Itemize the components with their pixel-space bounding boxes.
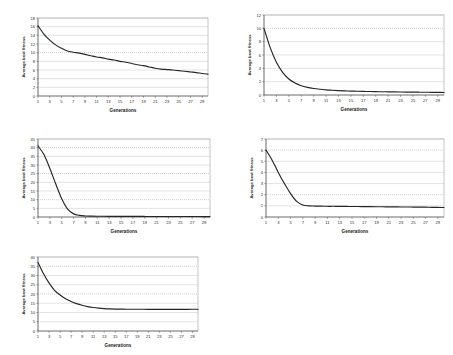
y-axis-title: Average best fitness xyxy=(21,36,26,78)
x-tick-label: 1 xyxy=(37,99,40,104)
x-tick-label: 15 xyxy=(118,99,123,104)
y-tick-label: 15 xyxy=(30,301,35,306)
y-tick-label: 20 xyxy=(30,180,35,185)
y-tick-label: 35 xyxy=(30,264,35,269)
chart-panel-4: 012345671357911131517192123252729Generat… xyxy=(222,125,453,243)
y-tick-label: 40 xyxy=(30,255,35,260)
plot-area xyxy=(38,139,210,217)
y-tick-label: 10 xyxy=(30,310,35,315)
x-tick-label: 23 xyxy=(398,98,403,103)
x-tick-label: 29 xyxy=(436,98,441,103)
y-tick-label: 0 xyxy=(259,93,262,98)
y-tick-label: 15 xyxy=(30,189,35,194)
y-tick-label: 25 xyxy=(30,171,35,176)
x-tick-label: 7 xyxy=(302,220,305,225)
x-tick-label: 19 xyxy=(135,334,140,339)
x-tick-label: 23 xyxy=(399,220,404,225)
panel-2-svg: 0246810121357911131517192123252729Genera… xyxy=(222,1,453,121)
x-tick-label: 25 xyxy=(178,220,183,225)
y-tick-label: 6 xyxy=(261,148,264,153)
y-tick-label: 8 xyxy=(33,59,36,64)
x-tick-label: 21 xyxy=(386,220,391,225)
x-tick-label: 27 xyxy=(190,220,195,225)
x-tick-label: 25 xyxy=(411,98,416,103)
x-tick-label: 5 xyxy=(289,220,292,225)
panel-3-svg: 0510152025303540451357911131517192123252… xyxy=(0,125,228,243)
x-tick-label: 29 xyxy=(202,220,207,225)
x-tick-label: 19 xyxy=(141,99,146,104)
x-tick-label: 15 xyxy=(349,98,354,103)
x-tick-label: 7 xyxy=(70,334,73,339)
x-tick-label: 1 xyxy=(265,220,268,225)
x-tick-label: 13 xyxy=(106,99,111,104)
y-tick-label: 4 xyxy=(261,170,264,175)
y-tick-label: 18 xyxy=(30,16,35,21)
y-tick-label: 3 xyxy=(261,181,264,186)
x-tick-label: 11 xyxy=(94,99,99,104)
x-tick-label: 21 xyxy=(386,98,391,103)
x-tick-label: 3 xyxy=(275,98,278,103)
x-tick-label: 29 xyxy=(436,220,441,225)
y-tick-label: 0 xyxy=(33,329,36,334)
y-tick-label: 30 xyxy=(30,163,35,168)
y-tick-label: 12 xyxy=(30,42,35,47)
y-tick-label: 7 xyxy=(261,137,264,142)
x-axis-title: Generations xyxy=(111,229,138,234)
figure-multi-panel-fitness-charts: 0246810121416181357911131517192123252729… xyxy=(0,0,453,355)
x-tick-label: 23 xyxy=(166,220,171,225)
x-tick-label: 7 xyxy=(72,99,75,104)
y-tick-label: 2 xyxy=(261,192,264,197)
x-tick-label: 7 xyxy=(72,220,75,225)
x-tick-label: 23 xyxy=(165,99,170,104)
x-tick-label: 3 xyxy=(277,220,280,225)
y-axis-title: Average best fitness xyxy=(249,157,254,199)
x-tick-label: 29 xyxy=(200,99,205,104)
x-tick-label: 21 xyxy=(154,220,159,225)
y-tick-label: 2 xyxy=(259,79,262,84)
x-tick-label: 27 xyxy=(188,99,193,104)
x-tick-label: 19 xyxy=(373,98,378,103)
x-axis-title: Generations xyxy=(341,107,368,112)
y-axis-title: Average best fitness xyxy=(21,273,26,315)
y-tick-label: 5 xyxy=(261,159,264,164)
x-tick-label: 13 xyxy=(102,334,107,339)
x-tick-label: 19 xyxy=(374,220,379,225)
y-tick-label: 20 xyxy=(30,292,35,297)
x-tick-label: 13 xyxy=(107,220,112,225)
x-tick-label: 15 xyxy=(350,220,355,225)
chart-panel-5: 0510152025303540135791113151719212325272… xyxy=(0,243,214,355)
y-tick-label: 12 xyxy=(256,13,261,18)
x-axis-title: Generations xyxy=(342,229,369,234)
x-tick-label: 17 xyxy=(124,334,129,339)
y-tick-label: 1 xyxy=(261,203,264,208)
x-tick-label: 1 xyxy=(37,334,40,339)
x-tick-label: 29 xyxy=(190,334,195,339)
x-tick-label: 13 xyxy=(337,220,342,225)
x-tick-label: 5 xyxy=(288,98,291,103)
y-tick-label: 40 xyxy=(30,145,35,150)
chart-panel-3: 0510152025303540451357911131517192123252… xyxy=(0,125,228,243)
x-tick-label: 9 xyxy=(84,220,87,225)
y-tick-label: 6 xyxy=(33,68,36,73)
x-axis-title: Generations xyxy=(110,108,137,113)
y-tick-label: 10 xyxy=(256,26,261,31)
x-tick-label: 1 xyxy=(37,220,40,225)
plot-area xyxy=(266,139,444,217)
y-tick-label: 5 xyxy=(33,319,36,324)
y-tick-label: 10 xyxy=(30,197,35,202)
x-tick-label: 21 xyxy=(146,334,151,339)
x-tick-label: 23 xyxy=(157,334,162,339)
x-tick-label: 17 xyxy=(362,220,367,225)
x-tick-label: 21 xyxy=(153,99,158,104)
chart-panel-1: 0246810121416181357911131517192123252729… xyxy=(0,4,225,122)
x-tick-label: 9 xyxy=(314,220,317,225)
x-tick-label: 27 xyxy=(423,220,428,225)
x-tick-label: 17 xyxy=(131,220,136,225)
y-tick-label: 16 xyxy=(30,24,35,29)
y-tick-label: 4 xyxy=(33,76,36,81)
x-tick-label: 5 xyxy=(59,334,62,339)
y-tick-label: 35 xyxy=(30,154,35,159)
x-tick-label: 15 xyxy=(113,334,118,339)
x-tick-label: 11 xyxy=(91,334,96,339)
x-tick-label: 9 xyxy=(313,98,316,103)
